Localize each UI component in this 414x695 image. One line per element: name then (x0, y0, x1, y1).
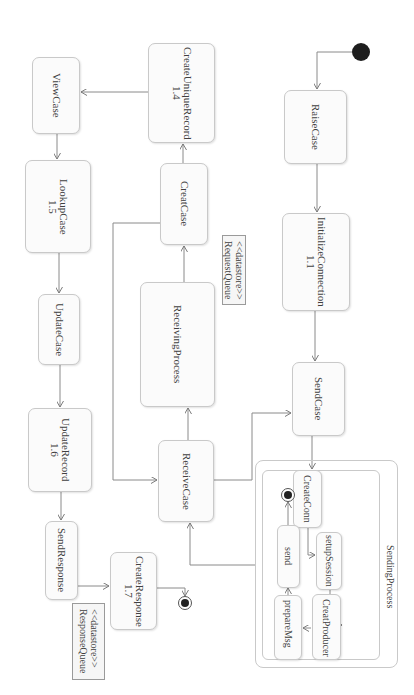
node-label: RaiseCase (310, 104, 321, 150)
node-number: 1.1 (305, 217, 316, 307)
node-create-unique-record[interactable]: CreateUniqueRecord 1.4 (148, 43, 215, 143)
sending-process-title: SendingProcess (385, 545, 396, 608)
node-creat-producer[interactable]: CreatProducer (312, 594, 341, 660)
node-label: ViewCase (51, 73, 62, 118)
node-receive-case[interactable]: ReceiveCase (158, 440, 214, 522)
node-number: 1.6 (49, 418, 60, 482)
datastore-stereotype: <<datastore>> (89, 609, 100, 673)
node-label: send (283, 547, 294, 565)
node-label: InitializeConnection (316, 217, 327, 307)
node-label: UpdateCase (54, 303, 65, 356)
datastore-response-queue[interactable]: <<datastore>> ResponseQueue (72, 603, 105, 680)
datastore-request-queue[interactable]: <<datastore>> RequestQueue (222, 235, 246, 305)
node-label: CreateConn (302, 475, 313, 523)
node-lookup-case[interactable]: LookupCase 1.5 (25, 160, 91, 253)
node-send-case[interactable]: SendCase (292, 362, 345, 436)
node-label: CreatProducer (321, 599, 332, 657)
datastore-label: ResponseQueue (78, 609, 89, 673)
node-label: prepareMsg (283, 600, 294, 648)
activity-diagram: RaiseCase InitializeConnection 1.1 SendC… (0, 0, 414, 695)
datastore-stereotype: <<datastore>> (234, 241, 245, 300)
node-send-response[interactable]: SendResponse (45, 521, 78, 600)
node-update-case[interactable]: UpdateCase (38, 294, 80, 365)
node-label: SendCase (313, 377, 324, 420)
node-create-conn[interactable]: CreateConn (293, 470, 322, 528)
node-raise-case[interactable]: RaiseCase (284, 90, 347, 164)
node-label: CreatCase (179, 181, 190, 226)
node-label: SendResponse (56, 528, 67, 592)
node-label: CreateResponse (134, 556, 145, 627)
node-send[interactable]: send (277, 525, 300, 588)
node-creat-case[interactable]: CreatCase (160, 163, 208, 245)
node-create-response[interactable]: CreateResponse 1.7 (110, 552, 157, 630)
edge-start-raisecase (317, 52, 352, 89)
node-label: LookupCase (58, 179, 69, 235)
node-label: CreateUniqueRecord (182, 47, 193, 140)
node-number: 1.7 (123, 556, 134, 627)
final-node (178, 596, 192, 610)
node-number: 1.4 (171, 47, 182, 140)
edge-createresponse-final (157, 588, 185, 596)
node-update-record[interactable]: UpdateRecord 1.6 (28, 408, 92, 492)
inner-final-node (281, 488, 295, 502)
node-setup-session[interactable]: setupSession (316, 532, 342, 590)
node-prepare-msg[interactable]: prepareMsg (274, 595, 302, 660)
edge-sendingprocess-receivecase (190, 523, 255, 565)
node-view-case[interactable]: ViewCase (32, 57, 80, 134)
node-label: ReceivingProcess (172, 305, 183, 383)
node-receiving-process[interactable]: ReceivingProcess (140, 282, 215, 407)
node-number: 1.5 (47, 179, 58, 235)
node-label: UpdateRecord (60, 418, 71, 482)
datastore-label: RequestQueue (223, 241, 234, 300)
node-label: ReceiveCase (181, 453, 192, 510)
initial-node (352, 43, 370, 61)
node-label: setupSession (324, 535, 335, 587)
node-initialize-connection[interactable]: InitializeConnection 1.1 (282, 213, 350, 311)
